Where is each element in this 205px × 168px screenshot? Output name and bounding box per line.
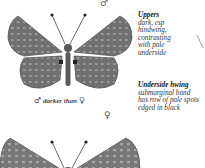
sex-difference-caption: ♂ darker than ♀ (34, 96, 85, 105)
male-symbol: ♂ (100, 0, 108, 8)
male-symbol: ♂ (34, 96, 41, 105)
underside-line: edged in black (138, 105, 205, 113)
female-symbol: ♀ (104, 110, 111, 120)
female-symbol: ♀ (79, 96, 85, 105)
underside-title: Underside hwing (138, 81, 189, 89)
female-butterfly-illustration (0, 130, 142, 168)
uppers-title: Uppers (138, 11, 159, 19)
underside-note: Underside hwing submarginal band has row… (138, 82, 205, 112)
uppers-line: underside (138, 50, 204, 58)
uppers-note: Uppers dark, esp hindwing, contrasting w… (138, 12, 204, 58)
leader-line (196, 34, 205, 50)
male-butterfly-illustration (4, 8, 134, 94)
caption-text: darker than (43, 97, 77, 105)
